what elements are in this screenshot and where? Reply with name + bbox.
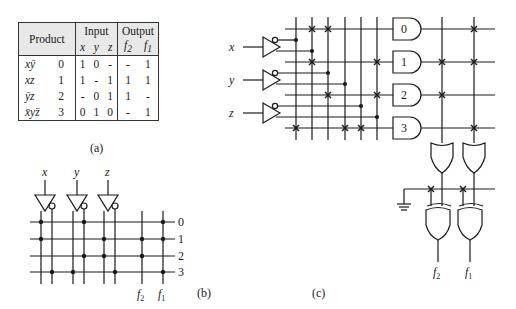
and-gate-label-2: 2 <box>401 88 407 102</box>
input-label-x: x <box>41 165 48 179</box>
panel-b-connections <box>39 220 165 274</box>
circuit-svg: x y z 0 1 2 3 f2 f1 <box>0 0 516 309</box>
output-label-f2: f2 <box>137 287 144 303</box>
panel-c-dots <box>294 38 379 119</box>
panel-b <box>30 180 175 284</box>
input-label-x: x <box>228 40 235 54</box>
input-label-z: z <box>104 165 110 179</box>
and-gate-label-3: 3 <box>401 121 407 135</box>
input-label-z: z <box>228 106 234 120</box>
and-gate-label-1: 1 <box>401 55 407 69</box>
panel-c-fuses <box>293 26 477 192</box>
input-label-y: y <box>228 73 235 87</box>
and-gate-label-0: 0 <box>401 22 407 36</box>
input-label-y: y <box>73 165 80 179</box>
row-label-2: 2 <box>178 249 184 263</box>
output-label-f1: f1 <box>158 287 165 303</box>
row-label-0: 0 <box>178 215 184 229</box>
panel-c <box>243 17 495 262</box>
output-label-f2: f2 <box>433 265 440 281</box>
pla-diagram: Product Input Output x y z f2 f1 xȳ 0 1 … <box>0 0 516 309</box>
row-label-3: 3 <box>178 265 184 279</box>
output-label-f1: f1 <box>465 265 472 281</box>
row-label-1: 1 <box>178 232 184 246</box>
